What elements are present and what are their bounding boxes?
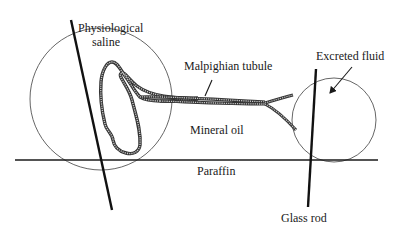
- excreted-fluid-arrow: [330, 67, 352, 93]
- malpighian-tubule-label: Malpighian tubule: [184, 60, 272, 73]
- malpighian-tubule-assay-diagram: Physiological saline Malpighian tubule E…: [0, 0, 397, 234]
- glass-rod-label: Glass rod: [281, 212, 327, 225]
- excreted-fluid-droplet: [292, 78, 376, 162]
- excreted-fluid-label: Excreted fluid: [316, 50, 384, 63]
- physiological-saline-label-line1: Physiological: [78, 22, 143, 35]
- malpighian-tubule-pointer: [205, 80, 212, 96]
- diagram-graphics: [0, 0, 397, 234]
- mineral-oil-label: Mineral oil: [190, 124, 244, 137]
- malpighian-tubule: [101, 62, 296, 154]
- right-glass-rod: [308, 69, 316, 207]
- physiological-saline-label-line2: saline: [92, 36, 120, 49]
- paraffin-label: Paraffin: [197, 165, 235, 178]
